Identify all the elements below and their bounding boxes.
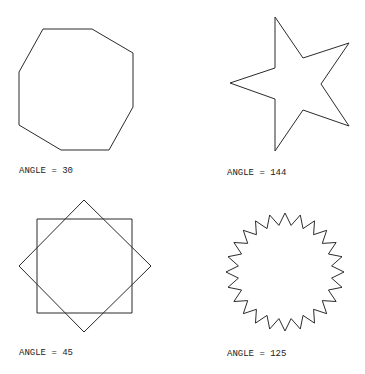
- turtle-angle-figures: ANGLE = 30 ANGLE = 144 ANGLE = 45 ANGLE …: [0, 0, 365, 374]
- label-angle-30: ANGLE = 30: [19, 166, 73, 176]
- figures-svg: [0, 0, 365, 374]
- zigzag-circle-shape: [226, 213, 344, 331]
- label-angle-144: ANGLE = 144: [227, 168, 286, 178]
- label-angle-125: ANGLE = 125: [227, 349, 286, 359]
- five-point-star-shape: [230, 17, 349, 151]
- label-angle-45: ANGLE = 45: [19, 348, 73, 358]
- diamond-shape: [19, 200, 151, 332]
- octagon-shape: [19, 29, 133, 150]
